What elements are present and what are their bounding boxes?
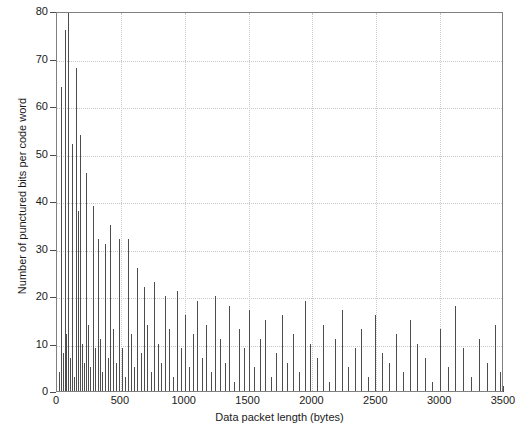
data-impulse [299,372,300,391]
data-impulse [93,206,94,391]
data-impulse [348,367,349,391]
data-impulse [80,135,81,392]
data-impulse [368,377,369,391]
data-impulse [66,334,67,391]
data-impulse [448,367,449,391]
data-impulse [410,320,411,391]
data-impulse [108,358,109,391]
data-impulse [122,348,123,391]
data-impulse [254,367,255,391]
data-impulse [487,363,488,392]
data-impulse [131,334,132,391]
data-impulse [396,334,397,391]
data-impulse [181,348,182,391]
data-impulse [147,325,148,392]
data-impulse [471,377,472,391]
data-impulse [244,348,245,391]
data-impulse [335,339,336,391]
data-impulse [342,310,343,391]
data-impulse [98,239,99,391]
data-impulse [206,325,207,392]
data-impulse [193,334,194,391]
data-impulse [125,377,126,391]
data-impulse [317,358,318,391]
data-impulse [144,287,145,392]
x-axis-title: Data packet length (bytes) [56,411,503,423]
chart-figure: 01020304050607080 0500100015002000250030… [0,0,529,431]
data-impulse [169,329,170,391]
data-impulse [110,225,111,391]
data-impulse [76,68,77,391]
data-impulse [82,344,83,392]
data-impulse [310,344,311,392]
data-impulse [105,244,106,391]
data-impulse [355,348,356,391]
data-impulse [287,363,288,392]
data-impulse [225,363,226,392]
data-impulse [95,348,96,391]
data-impulse [215,296,216,391]
data-impulse [86,173,87,392]
data-impulse [234,382,235,392]
data-impulse [158,344,159,392]
data-impulse [90,367,91,391]
data-impulse [128,239,129,391]
data-impulse [165,296,166,391]
y-axis-tick [50,392,56,393]
data-impulse [134,367,135,391]
data-impulse [271,377,272,391]
data-impulse [202,358,203,391]
data-impulse [189,367,190,391]
data-impulse [425,358,426,391]
data-impulse [500,372,501,391]
x-axis-tick-label: 1500 [218,395,278,406]
data-impulse [440,329,441,391]
data-impulse [260,339,261,391]
data-impulse [361,329,362,391]
data-impulse [68,12,69,391]
data-impulse [211,372,212,391]
data-impulse [70,358,71,391]
data-impulse [84,363,85,392]
data-impulse [78,211,79,392]
data-impulse [137,268,138,392]
data-impulse [141,353,142,391]
data-impulse [282,315,283,391]
data-impulse [417,344,418,392]
x-axis-tick-label: 500 [90,395,150,406]
x-axis-tick-label: 3500 [473,395,529,406]
data-impulse [59,372,60,391]
data-impulse [455,306,456,392]
data-impulse [100,339,101,391]
x-axis-tick-label: 2500 [345,395,405,406]
data-impulse [177,291,178,391]
data-impulse [495,325,496,392]
data-impulse [154,282,155,391]
data-impulse [265,320,266,391]
x-axis-tick-label: 3000 [409,395,469,406]
data-impulse [403,372,404,391]
data-impulse [102,372,103,391]
y-axis-title: Number of punctured bits per code word [16,6,28,386]
data-impulse [305,301,306,391]
data-impulse [88,325,89,392]
data-impulse [116,363,117,392]
data-impulse [113,329,114,391]
data-impulse [463,348,464,391]
data-impulse [63,353,64,391]
data-impulse [220,339,221,391]
data-impulse [72,144,73,391]
data-impulse [432,382,433,392]
data-impulse [229,306,230,392]
data-impulse [197,301,198,391]
plot-area [56,12,503,392]
data-impulse [185,315,186,391]
data-series-impulses [57,13,502,391]
data-impulse [276,353,277,391]
data-impulse [479,339,480,391]
data-impulse [382,353,383,391]
data-impulse [151,372,152,391]
data-impulse [323,325,324,392]
x-axis-tick [503,386,504,392]
x-axis-tick-label: 0 [26,395,86,406]
